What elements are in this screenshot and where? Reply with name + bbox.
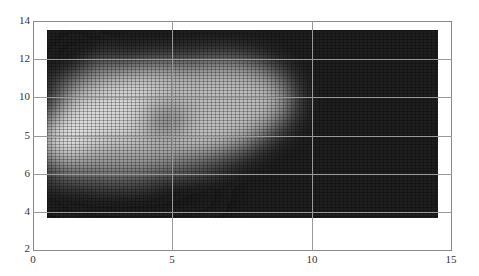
x-tick-label: 10 [302,254,322,265]
gridline-y-4 [33,212,452,213]
x-tick-label: 5 [162,254,182,265]
y-tick-label: 14 [8,15,30,26]
y-tick-label: 2 [8,243,30,254]
gridline-y-6 [33,174,452,175]
x-tick-label: 0 [23,254,43,265]
y-tick-label: 12 [8,53,30,64]
gridline-y-8 [33,136,452,137]
y-tick-label: 5 [8,130,30,141]
gridline-y-10 [33,97,452,98]
y-tick-label: 4 [8,206,30,217]
y-tick-label: 6 [8,168,30,179]
gridline-y-12 [33,59,452,60]
y-tick-label: 10 [8,91,30,102]
x-tick-label: 15 [441,254,461,265]
